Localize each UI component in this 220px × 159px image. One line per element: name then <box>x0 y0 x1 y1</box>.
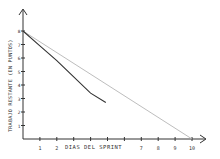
x-axis <box>23 135 206 143</box>
y-tick-label: 6 <box>18 56 21 61</box>
y-ticks: 12345678 <box>18 29 25 129</box>
y-tick-label: 5 <box>18 70 21 75</box>
x-tick-label: 1 <box>38 145 41 151</box>
series-group <box>23 31 192 139</box>
x-tick-label: 10 <box>189 145 195 151</box>
x-tick-label: 8 <box>157 145 160 151</box>
x-tick-label: 2 <box>55 145 58 151</box>
series-line-real <box>23 31 106 103</box>
y-tick-label: 1 <box>18 124 21 129</box>
y-tick-label: 2 <box>18 110 21 115</box>
x-tick-label: 9 <box>174 145 177 151</box>
burndown-chart: 1278910 12345678 DIAS DEL SPRINT TRABAJO… <box>0 0 220 159</box>
y-axis-label: TRABAJO RESTANTE (EN PUNTOS) <box>7 39 13 132</box>
series-line-ideal <box>23 31 192 139</box>
y-tick-label: 4 <box>18 83 21 88</box>
y-tick-label: 7 <box>18 43 21 48</box>
x-tick-label: 7 <box>140 145 143 151</box>
y-tick-label: 8 <box>18 29 21 34</box>
y-tick-label: 3 <box>18 97 21 102</box>
chart-svg: 1278910 12345678 DIAS DEL SPRINT TRABAJO… <box>0 0 220 159</box>
x-axis-label: DIAS DEL SPRINT <box>65 144 122 150</box>
